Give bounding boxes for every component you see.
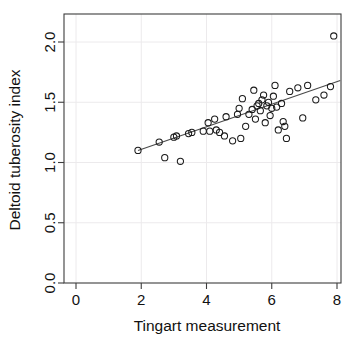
x-tick-label: 2 [137, 291, 145, 308]
data-point [239, 96, 245, 102]
data-point [262, 120, 268, 126]
scatter-plot-figure: 02468 0.00.51.01.52.0 Tingart measuremen… [0, 0, 358, 342]
y-tick-label: 0.5 [41, 212, 58, 233]
data-point [321, 92, 327, 98]
y-tick-label: 2.0 [41, 32, 58, 53]
data-point [230, 138, 236, 144]
data-point [331, 33, 337, 39]
data-point [212, 116, 218, 122]
x-tick-label: 4 [202, 291, 210, 308]
x-tick-label: 6 [268, 291, 276, 308]
data-point [287, 88, 293, 94]
data-point [135, 147, 141, 153]
data-point [300, 115, 306, 121]
y-axis-title: Deltoid tuberosity index [6, 69, 23, 230]
data-point [207, 128, 213, 134]
y-tick-label: 1.5 [41, 92, 58, 113]
data-point [272, 82, 278, 88]
x-axis-ticks [76, 283, 337, 289]
data-point [223, 114, 229, 120]
plot-canvas: 02468 0.00.51.01.52.0 Tingart measuremen… [0, 0, 358, 342]
data-point [205, 120, 211, 126]
data-point [221, 133, 227, 139]
regression-line [138, 81, 340, 151]
gridlines [64, 14, 341, 283]
x-tick-label: 8 [333, 291, 341, 308]
data-point [252, 116, 258, 122]
data-point [162, 155, 168, 161]
data-point [275, 127, 281, 133]
data-point [238, 135, 244, 141]
y-tick-label: 0.0 [41, 273, 58, 294]
x-tick-labels: 02468 [72, 291, 341, 308]
data-point [305, 82, 311, 88]
x-tick-label: 0 [72, 291, 80, 308]
y-axis-ticks [58, 42, 64, 283]
fit-line [138, 81, 340, 151]
x-axis-title: Tingart measurement [134, 317, 281, 334]
data-points [135, 33, 337, 165]
data-point [177, 158, 183, 164]
y-tick-label: 1.0 [41, 152, 58, 173]
data-point [267, 112, 273, 118]
plot-frame [64, 14, 341, 283]
data-point [270, 93, 276, 99]
y-tick-labels: 0.00.51.01.52.0 [41, 32, 58, 294]
data-point [236, 105, 242, 111]
data-point [251, 87, 257, 93]
data-point [295, 85, 301, 91]
data-point [200, 128, 206, 134]
data-point [283, 135, 289, 141]
data-point [243, 123, 249, 129]
